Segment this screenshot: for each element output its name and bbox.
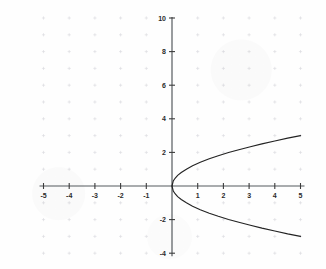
grid-cross (42, 201, 45, 204)
grid-cross (196, 134, 199, 137)
y-tick-label: 2 (162, 149, 166, 156)
grid-cross (42, 16, 45, 19)
grid-cross (196, 151, 199, 154)
grid-cross (145, 218, 148, 221)
grid-cross (119, 252, 122, 255)
grid-cross (42, 252, 45, 255)
grid-cross (299, 50, 302, 53)
grid-cross (42, 84, 45, 87)
grid-cross (145, 84, 148, 87)
grid-cross (222, 50, 225, 53)
grid-cross (145, 16, 148, 19)
grid-cross (145, 117, 148, 120)
grid-cross (248, 168, 251, 171)
grid-cross (119, 151, 122, 154)
grid-cross (299, 67, 302, 70)
grid-cross (273, 134, 276, 137)
grid-cross (273, 117, 276, 120)
grid-cross (93, 134, 96, 137)
y-tick-label: -4 (160, 250, 166, 257)
grid-cross (299, 168, 302, 171)
graph-canvas: -5-4-3-2-112345-4-2246810 (0, 0, 326, 269)
grid-cross (68, 151, 71, 154)
grid-cross (196, 84, 199, 87)
grid-cross (68, 218, 71, 221)
grid-cross (222, 235, 225, 238)
grid-cross (119, 201, 122, 204)
grid-cross (68, 117, 71, 120)
grid-cross (299, 218, 302, 221)
grid-cross (145, 168, 148, 171)
grid-cross (145, 50, 148, 53)
grid-cross (68, 33, 71, 36)
grid-cross (222, 201, 225, 204)
grid-cross (196, 67, 199, 70)
grid-cross (119, 218, 122, 221)
x-tick-label: -4 (66, 192, 72, 199)
grid-cross (145, 235, 148, 238)
grid-cross (196, 218, 199, 221)
grid-cross (222, 168, 225, 171)
grid-cross (299, 151, 302, 154)
x-tick-label: 5 (299, 192, 303, 199)
grid-cross (145, 201, 148, 204)
grid-cross (93, 100, 96, 103)
grid-cross (273, 50, 276, 53)
y-tick-label: -2 (160, 216, 166, 223)
grid-cross (299, 84, 302, 87)
parabola-branch (172, 186, 301, 236)
x-tick-label: 4 (273, 192, 277, 199)
grid-cross (222, 84, 225, 87)
grid-cross (145, 33, 148, 36)
grid-cross (299, 100, 302, 103)
grid-cross (68, 134, 71, 137)
grid-cross (93, 84, 96, 87)
grid-cross (119, 67, 122, 70)
y-tick-label: 10 (158, 15, 166, 22)
grid-cross (119, 134, 122, 137)
grid-cross (42, 218, 45, 221)
grid-cross (93, 117, 96, 120)
grid-cross (222, 33, 225, 36)
grid-cross (93, 67, 96, 70)
grid-cross (42, 100, 45, 103)
grid-cross (248, 50, 251, 53)
grid-cross (273, 67, 276, 70)
grid-cross (299, 16, 302, 19)
grid-cross (222, 16, 225, 19)
grid-cross (273, 84, 276, 87)
grid-cross (93, 252, 96, 255)
grid-cross (273, 218, 276, 221)
grid-cross (68, 235, 71, 238)
grid-cross (119, 50, 122, 53)
grid-cross (248, 33, 251, 36)
grid-cross (68, 100, 71, 103)
grid-cross (93, 168, 96, 171)
grid-cross (222, 100, 225, 103)
grid-cross (145, 100, 148, 103)
grid-cross (42, 151, 45, 154)
grid-cross (196, 252, 199, 255)
grid-cross (196, 33, 199, 36)
x-tick-label: 2 (221, 192, 225, 199)
grid-cross (119, 33, 122, 36)
grid-cross (248, 117, 251, 120)
grid-cross (222, 134, 225, 137)
grid-cross (196, 100, 199, 103)
grid-cross (222, 252, 225, 255)
grid-cross (93, 16, 96, 19)
grid-cross (196, 16, 199, 19)
grid-cross (42, 168, 45, 171)
grid-cross (42, 134, 45, 137)
grid-cross (273, 235, 276, 238)
grid-cross (273, 33, 276, 36)
grid-cross (93, 235, 96, 238)
grid-cross (248, 201, 251, 204)
grid-cross (196, 201, 199, 204)
grid-cross (299, 252, 302, 255)
grid-cross (145, 252, 148, 255)
grid-cross (93, 50, 96, 53)
axis-layer (40, 17, 305, 256)
grid-cross (196, 117, 199, 120)
grid-cross (196, 168, 199, 171)
